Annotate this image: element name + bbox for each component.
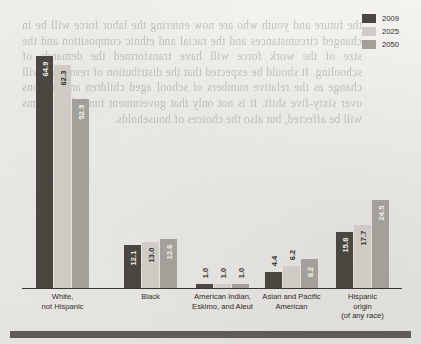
legend-item: 2050 <box>362 40 399 49</box>
page-footer-rule <box>10 331 411 338</box>
bar-value-label: 12.1 <box>128 250 137 265</box>
category-label-1: White,not Hispanic <box>18 292 108 311</box>
bar-2025-group-3 <box>214 284 231 288</box>
bar-value-label: 4.4 <box>269 256 278 267</box>
legend-item: 2025 <box>362 27 399 36</box>
chart-legend: 2009 2025 2050 <box>362 14 399 53</box>
legend-swatch-2009 <box>362 14 376 23</box>
chart-page: the future and youth who are now enterin… <box>0 0 421 344</box>
category-label-line: origin <box>318 302 408 312</box>
bar-2025-group-1 <box>54 65 71 288</box>
bar-value-label: 6.2 <box>287 250 296 261</box>
bar-value-label: 64.9 <box>40 62 49 77</box>
bar-value-label: 1.0 <box>200 268 209 279</box>
legend-item: 2009 <box>362 14 399 23</box>
legend-swatch-2050 <box>362 40 376 49</box>
bar-2025-group-4 <box>283 266 300 288</box>
bar-value-label: 1.0 <box>236 268 245 279</box>
bar-2009-group-3 <box>196 284 213 288</box>
bar-value-label: 8.2 <box>305 266 314 277</box>
legend-label-2009: 2009 <box>382 14 399 23</box>
bar-chart-plot: 64.962.352.912.113.013.61.01.01.04.46.28… <box>0 0 421 300</box>
category-label-5: Hispanicorigin(of any race) <box>318 292 408 321</box>
bar-value-label: 13.6 <box>164 245 173 260</box>
bar-value-label: 1.0 <box>218 268 227 279</box>
bar-value-label: 17.7 <box>358 230 367 245</box>
bar-value-label: 62.3 <box>58 71 67 86</box>
bar-2050-group-1 <box>72 99 89 288</box>
bar-2009-group-1 <box>36 56 53 288</box>
bar-value-label: 15.8 <box>340 237 349 252</box>
legend-label-2025: 2025 <box>382 27 399 36</box>
bar-2009-group-4 <box>265 272 282 288</box>
legend-label-2050: 2050 <box>382 40 399 49</box>
category-label-line: Hispanic <box>318 292 408 302</box>
x-axis-line <box>22 288 402 289</box>
bar-value-label: 13.0 <box>146 247 155 262</box>
category-label-line: (of any race) <box>318 311 408 321</box>
category-label-line: not Hispanic <box>18 302 108 312</box>
bar-2050-group-3 <box>232 284 249 288</box>
category-label-line: White, <box>18 292 108 302</box>
legend-swatch-2025 <box>362 27 376 36</box>
bar-value-label: 24.5 <box>376 206 385 221</box>
bar-value-label: 52.9 <box>76 104 85 119</box>
